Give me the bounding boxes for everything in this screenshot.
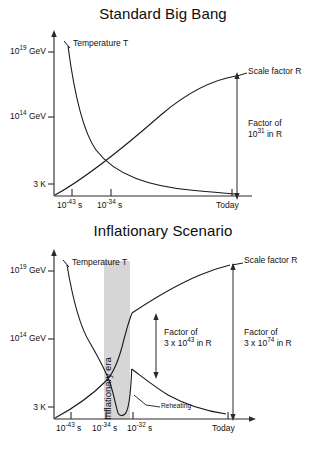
- x-tick-label-1: 10-43 s: [56, 423, 81, 434]
- label-scale-factor-curve: Scale factor R: [244, 255, 297, 266]
- x-tick-label-2: 10-34 s: [92, 423, 117, 434]
- y-tick-label-3: 3 K: [2, 402, 46, 413]
- chart-title-standard-big-bang: Standard Big Bang: [0, 5, 326, 22]
- axes-standard-big-bang: [48, 30, 252, 196]
- plot-area-standard-big-bang: 1019 GeV 1014 GeV 3 K 10-43 s 10-34 s To…: [0, 26, 326, 225]
- plot-area-inflationary-scenario: 1019 GeV 1014 GeV 3 K 10-43 s 10-34 s 10…: [0, 243, 326, 450]
- y-axis-arrow: [51, 30, 57, 37]
- x-tick-label-1: 10-43 s: [57, 200, 82, 211]
- x-tick-label-2: 10-34 s: [97, 200, 122, 211]
- x-axis-end-label: Today: [212, 423, 235, 434]
- x-axis-arrow: [249, 416, 256, 422]
- annotation-inflation-factor: Factor of 3 x 1043 in R: [164, 327, 212, 348]
- label-temperature-curve: Temperature T: [72, 257, 127, 268]
- axes-inflationary-scenario: [48, 249, 256, 422]
- y-tick-label-3: 3 K: [2, 179, 46, 190]
- curve-scale-factor-post-inflation: [132, 265, 230, 313]
- reheating-leader-line: [134, 395, 160, 407]
- scale-factor-leader-line: [232, 263, 243, 265]
- y-axis-arrow: [51, 249, 57, 256]
- label-temperature-curve: Temperature T: [73, 38, 128, 49]
- label-inflationary-era: Inflationary era: [102, 357, 113, 420]
- y-tick-label-2: 1014 GeV: [2, 111, 46, 122]
- annotation-total-factor: Factor of 3 x 1074 in R: [244, 327, 292, 348]
- curve-scale-factor: [55, 76, 236, 195]
- annotation-factor-in-r: Factor of 1031 in R: [248, 118, 282, 139]
- curve-temperature: [68, 46, 236, 194]
- x-tick-label-3: 10-32 s: [127, 423, 152, 434]
- inflation-factor-arrow: [153, 313, 158, 379]
- temperature-leader-line: [64, 41, 70, 48]
- figure-inflationary-scenario: Inflationary Scenario: [0, 219, 326, 450]
- temperature-leader-line: [63, 260, 69, 267]
- figure-standard-big-bang: Standard Big Bang: [0, 0, 326, 225]
- label-reheating: Reheating: [161, 402, 191, 410]
- x-axis-end-label: Today: [216, 200, 239, 211]
- today-factor-arrow: [230, 263, 235, 421]
- y-tick-label-1: 1019 GeV: [2, 46, 46, 57]
- label-scale-factor-curve: Scale factor R: [248, 66, 301, 77]
- scale-factor-leader-line: [237, 73, 247, 76]
- y-tick-label-1: 1019 GeV: [2, 265, 46, 276]
- y-tick-label-2: 1014 GeV: [2, 333, 46, 344]
- today-factor-arrow: [234, 72, 239, 200]
- chart-title-inflationary-scenario: Inflationary Scenario: [0, 222, 326, 239]
